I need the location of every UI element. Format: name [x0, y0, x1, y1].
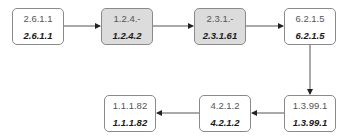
node-ec-number: 4.2.1.2: [200, 114, 250, 132]
node-ec-class: 1.1.1.82: [105, 96, 155, 114]
node-ec-class: 6.2.1.5: [285, 9, 335, 27]
node-ec-class: 1.2.4.-: [102, 9, 152, 27]
node-1-2-4-2[interactable]: 1.2.4.- 1.2.4.2: [101, 8, 153, 45]
node-1-3-99-1[interactable]: 1.3.99.1 1.3.99.1: [284, 95, 336, 132]
node-ec-number: 1.2.4.2: [102, 27, 152, 45]
node-ec-number: 1.1.1.82: [105, 114, 155, 132]
node-2-6-1-1[interactable]: 2.6.1.1 2.6.1.1: [12, 8, 64, 45]
node-ec-class: 2.6.1.1: [13, 9, 63, 27]
node-ec-class: 1.3.99.1: [285, 96, 335, 114]
node-ec-number: 2.6.1.1: [13, 27, 63, 45]
node-ec-class: 2.3.1.-: [195, 9, 245, 27]
node-1-1-1-82[interactable]: 1.1.1.82 1.1.1.82: [104, 95, 156, 132]
node-ec-number: 2.3.1.61: [195, 27, 245, 45]
node-2-3-1-61[interactable]: 2.3.1.- 2.3.1.61: [194, 8, 246, 45]
node-ec-number: 6.2.1.5: [285, 27, 335, 45]
node-6-2-1-5[interactable]: 6.2.1.5 6.2.1.5: [284, 8, 336, 45]
node-ec-class: 4.2.1.2: [200, 96, 250, 114]
node-4-2-1-2[interactable]: 4.2.1.2 4.2.1.2: [199, 95, 251, 132]
node-ec-number: 1.3.99.1: [285, 114, 335, 132]
